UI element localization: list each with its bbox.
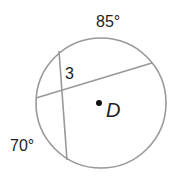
diagram-canvas [0, 0, 173, 187]
center-point [96, 100, 102, 106]
angle-3-label: 3 [65, 66, 74, 82]
arc-left-measure: 70° [10, 138, 34, 154]
center-d-label: D [106, 100, 120, 120]
arc-top-measure: 85° [96, 14, 120, 30]
chord-horizontal [36, 63, 152, 98]
